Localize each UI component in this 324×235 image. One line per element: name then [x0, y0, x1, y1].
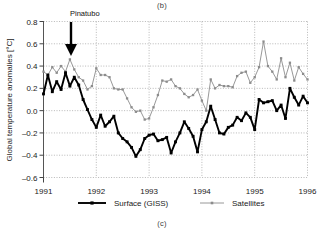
x-tick-label: 1992: [87, 187, 105, 196]
figure-panel-b: (b) 0.80.60.40.20.0–0.2–0.4–0.6 19911992…: [0, 0, 324, 235]
y-tick-label: –0.4: [22, 151, 38, 160]
x-tick-label: 1996: [299, 187, 317, 196]
legend-label: Surface (GISS): [114, 199, 169, 208]
legend-marker: [211, 202, 214, 205]
axis-ticks: [40, 22, 44, 183]
down-arrow-icon: [65, 22, 77, 56]
y-tick-label: 0.6: [26, 40, 38, 49]
y-tick-label: 0.4: [26, 62, 38, 71]
y-tick-labels: 0.80.60.40.20.0–0.2–0.4–0.6: [22, 18, 38, 183]
pinatubo-annotation: Pinatubo: [65, 9, 100, 56]
y-tick-label: 0.0: [26, 107, 38, 116]
panel-label-top: (b): [0, 1, 324, 10]
legend-label: Satellites: [232, 199, 264, 208]
y-tick-label: –0.2: [22, 129, 38, 138]
x-tick-label: 1995: [246, 187, 264, 196]
x-tick-label: 1991: [35, 187, 53, 196]
temperature-anomaly-chart: 0.80.60.40.20.0–0.2–0.4–0.6 199119921993…: [0, 0, 324, 235]
data-series: [42, 40, 309, 157]
x-tick-label: 1993: [140, 187, 158, 196]
x-tick-labels: 199119921993199419951996: [35, 187, 317, 196]
pinatubo-label: Pinatubo: [70, 9, 100, 18]
y-tick-label: 0.2: [26, 84, 38, 93]
y-axis-title: Global temperature anomalies [°C]: [5, 39, 14, 162]
y-tick-label: –0.6: [22, 174, 38, 183]
series-surface-giss: [42, 71, 309, 157]
y-tick-label: 0.8: [26, 18, 38, 27]
legend-item-satellites: Satellites: [200, 199, 264, 208]
legend-item-surface-giss: Surface (GISS): [78, 199, 169, 208]
series-satellites: [42, 40, 308, 120]
svg-text:Global temperature anomalies [: Global temperature anomalies [°C]: [5, 39, 14, 162]
chart-legend: Surface (GISS)Satellites: [78, 199, 264, 208]
x-tick-label: 1994: [193, 187, 211, 196]
panel-label-bottom: (c): [0, 219, 324, 228]
legend-marker: [90, 201, 93, 204]
